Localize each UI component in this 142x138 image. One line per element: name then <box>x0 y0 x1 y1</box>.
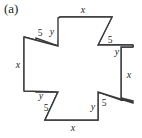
label-bottom-right-y: y <box>90 101 96 112</box>
label-bottom-right-5: 5 <box>102 98 107 108</box>
label-top-right-y: y <box>114 46 120 57</box>
label-top-right-5: 5 <box>108 35 113 45</box>
label-top-left-y: y <box>49 26 55 37</box>
pinwheel-diagram: x y 5 x 5 y x y 5 x y 5 <box>0 0 142 138</box>
figure-container: (a) x y 5 x 5 y x <box>0 0 142 138</box>
label-left-x: x <box>15 59 21 70</box>
label-bottom-left-5: 5 <box>44 103 49 113</box>
label-right-x: x <box>126 69 132 80</box>
label-top-x: x <box>80 4 86 15</box>
label-top-left-5: 5 <box>38 28 43 38</box>
label-bottom-left-y: y <box>38 90 44 101</box>
label-bottom-x: x <box>70 122 76 133</box>
